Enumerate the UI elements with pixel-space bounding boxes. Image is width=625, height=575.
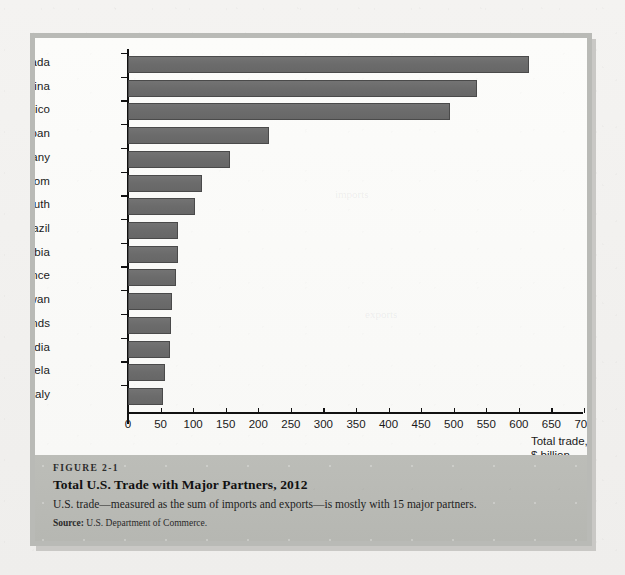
bar-category-label: Japan bbox=[35, 127, 50, 139]
x-axis-tick-label: 700 bbox=[574, 418, 587, 430]
bar-row: Netherlands bbox=[35, 314, 587, 338]
bar bbox=[128, 103, 450, 120]
figure-title: Total U.S. Trade with Major Partners, 20… bbox=[53, 477, 571, 493]
bar bbox=[128, 317, 171, 334]
bar-chart: Total trade,$ billion CanadaChinaMexicoJ… bbox=[35, 38, 587, 455]
bar bbox=[128, 222, 178, 239]
bar bbox=[128, 56, 529, 73]
x-axis-tick-label: 150 bbox=[216, 418, 235, 430]
bar-category-label: United Kingdom bbox=[35, 175, 50, 187]
bar-row: Taiwan bbox=[35, 290, 587, 314]
bar-row: Italy bbox=[35, 385, 587, 409]
x-axis-tick bbox=[258, 408, 259, 413]
y-axis-tick bbox=[121, 219, 127, 220]
y-axis-tick bbox=[121, 53, 127, 54]
x-axis-tick bbox=[421, 408, 422, 413]
bar-row: Korea, South bbox=[35, 195, 587, 219]
x-axis-tick-label: 250 bbox=[281, 418, 300, 430]
y-axis-tick bbox=[121, 290, 127, 291]
figure-block: imports exports Total trade,$ billion Ca… bbox=[30, 33, 592, 546]
bar bbox=[128, 175, 202, 192]
y-axis-tick bbox=[121, 124, 127, 125]
x-axis-tick-label: 600 bbox=[509, 418, 528, 430]
x-axis-tick bbox=[454, 408, 455, 413]
bar bbox=[128, 293, 172, 310]
bar-row: Japan bbox=[35, 124, 587, 148]
figure-caption: FIGURE 2-1 Total U.S. Trade with Major P… bbox=[35, 455, 587, 541]
x-axis-tick-label: 0 bbox=[125, 418, 131, 430]
x-axis-tick bbox=[193, 408, 194, 413]
bar-category-label: China bbox=[35, 80, 50, 92]
bar-category-label: Germany bbox=[35, 151, 50, 163]
bar-category-label: France bbox=[35, 269, 50, 281]
x-axis-tick bbox=[128, 408, 129, 413]
bar bbox=[128, 269, 176, 286]
bar bbox=[128, 198, 195, 215]
bar bbox=[128, 246, 178, 263]
bar-category-label: Korea, South bbox=[35, 198, 50, 210]
x-axis-tick bbox=[551, 408, 552, 413]
x-axis-tick bbox=[226, 408, 227, 413]
bar-row: Mexico bbox=[35, 100, 587, 124]
x-axis-tick bbox=[161, 408, 162, 413]
bar-category-label: Mexico bbox=[35, 103, 50, 115]
chart-panel: imports exports Total trade,$ billion Ca… bbox=[35, 38, 587, 455]
x-axis-title: Total trade,$ billion bbox=[531, 435, 587, 455]
bar-row: France bbox=[35, 266, 587, 290]
x-axis-tick-label: 450 bbox=[412, 418, 431, 430]
y-axis-tick bbox=[121, 314, 127, 315]
x-axis-tick bbox=[323, 408, 324, 413]
x-axis-tick-label: 200 bbox=[249, 418, 268, 430]
x-axis-tick bbox=[486, 408, 487, 413]
x-axis-tick-label: 500 bbox=[444, 418, 463, 430]
bar-category-label: Netherlands bbox=[35, 317, 50, 329]
figure-source: Source: U.S. Department of Commerce. bbox=[53, 518, 571, 528]
x-axis-tick bbox=[291, 408, 292, 413]
y-axis-tick bbox=[121, 243, 127, 244]
bar-category-label: Saudi Arabia bbox=[35, 246, 50, 258]
x-axis-tick bbox=[356, 408, 357, 413]
bar bbox=[128, 151, 230, 168]
y-axis-tick bbox=[121, 195, 127, 196]
figure-number: FIGURE 2-1 bbox=[53, 463, 571, 473]
x-axis-title-line: Total trade, bbox=[531, 435, 587, 449]
x-axis-tick-label: 650 bbox=[542, 418, 561, 430]
bar bbox=[128, 341, 170, 358]
figure-description: U.S. trade—measured as the sum of import… bbox=[53, 498, 571, 510]
bar bbox=[128, 127, 269, 144]
bar-category-label: Taiwan bbox=[35, 293, 50, 305]
bar bbox=[128, 388, 163, 405]
bar-row: Brazil bbox=[35, 219, 587, 243]
y-axis-tick bbox=[121, 385, 127, 386]
bar bbox=[128, 364, 165, 381]
x-axis-tick-label: 550 bbox=[477, 418, 496, 430]
bar-row: Germany bbox=[35, 148, 587, 172]
bar-category-label: Canada bbox=[35, 56, 50, 68]
x-axis-tick bbox=[584, 408, 585, 413]
bar-row: Saudi Arabia bbox=[35, 243, 587, 267]
bar-row: Venezuela bbox=[35, 361, 587, 385]
x-axis-line bbox=[127, 412, 583, 414]
source-text: U.S. Department of Commerce. bbox=[86, 518, 207, 528]
bar-category-label: Venezuela bbox=[35, 364, 50, 376]
bar-row: India bbox=[35, 338, 587, 362]
x-axis-tick-label: 100 bbox=[184, 418, 203, 430]
x-axis-tick bbox=[519, 408, 520, 413]
y-axis-tick bbox=[121, 148, 127, 149]
bar-row: Canada bbox=[35, 53, 587, 77]
x-axis-tick-label: 350 bbox=[346, 418, 365, 430]
x-axis-tick bbox=[389, 408, 390, 413]
y-axis-tick bbox=[121, 266, 127, 267]
y-axis-tick bbox=[121, 361, 127, 362]
bar-row: China bbox=[35, 77, 587, 101]
y-axis-tick bbox=[121, 77, 127, 78]
bar-category-label: Italy bbox=[35, 388, 50, 400]
bar-category-label: India bbox=[35, 341, 50, 353]
y-axis-tick bbox=[121, 100, 127, 101]
x-axis-tick-label: 300 bbox=[314, 418, 333, 430]
y-axis-tick bbox=[121, 338, 127, 339]
x-axis-tick-label: 50 bbox=[154, 418, 167, 430]
x-axis-tick-label: 400 bbox=[379, 418, 398, 430]
bar-category-label: Brazil bbox=[35, 222, 50, 234]
bar bbox=[128, 80, 477, 97]
